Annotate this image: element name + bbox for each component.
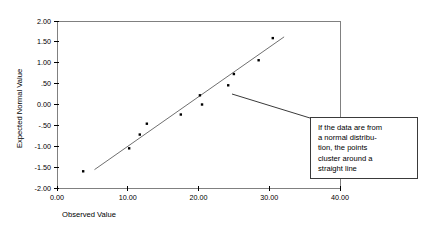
y-tick-label: 1.00 <box>37 58 51 67</box>
data-point <box>201 103 203 105</box>
data-point <box>128 147 130 149</box>
y-tick-label: -1.50 <box>35 163 51 172</box>
data-point <box>272 37 274 39</box>
data-point <box>233 73 235 75</box>
y-tick-label: -1.00 <box>35 142 51 151</box>
data-points <box>82 37 274 173</box>
y-axis-title: Expected Normal Value <box>15 69 24 148</box>
x-tick-label: 20.00 <box>190 193 208 202</box>
y-tick-label: -2.00 <box>35 184 51 193</box>
plot-frame <box>57 21 340 188</box>
annotation-leader-line <box>232 94 310 118</box>
reference-fit-line <box>94 37 284 170</box>
x-tick-label: 10.00 <box>119 193 137 202</box>
x-tick-label: 0.00 <box>50 193 64 202</box>
y-tick-label: 0.00 <box>37 100 51 109</box>
data-point <box>180 113 182 115</box>
y-axis-tick-labels: 2.001.501.00.500.00-.50-1.00-1.50-2.00 <box>35 17 51 193</box>
y-tick-label: -.50 <box>39 121 51 130</box>
data-point <box>227 84 229 86</box>
x-axis-title: Observed Value <box>62 210 116 219</box>
data-point <box>199 94 201 96</box>
x-tick-label: 30.00 <box>260 193 278 202</box>
annotation-text: If the data are from a normal distribu- … <box>318 123 411 174</box>
data-point <box>82 170 84 172</box>
y-tick-label: 1.50 <box>37 37 51 46</box>
data-point <box>139 133 141 135</box>
axis-ticks <box>54 21 340 191</box>
x-axis-tick-labels: 0.0010.0020.0030.0040.00 <box>50 193 349 202</box>
y-tick-label: .50 <box>41 79 51 88</box>
normal-qq-plot: 2.001.501.00.500.00-.50-1.00-1.50-2.00 0… <box>0 0 429 235</box>
data-point <box>257 59 259 61</box>
annotation-callout-box: If the data are from a normal distribu- … <box>310 117 418 179</box>
data-point <box>146 123 148 125</box>
x-tick-label: 40.00 <box>331 193 349 202</box>
y-tick-label: 2.00 <box>37 17 51 26</box>
